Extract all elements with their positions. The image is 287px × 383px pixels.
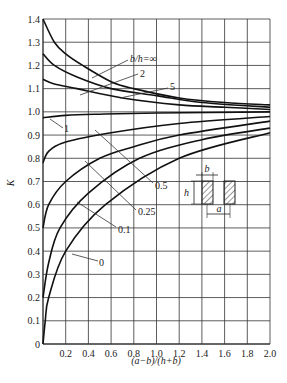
leader-line: [72, 254, 98, 261]
chart: b/h=∞2510.50.250.10 0.20.40.60.81.01.21.…: [0, 0, 287, 383]
x-axis-label: (a−b)/(h+b): [131, 355, 181, 367]
y-tick-label: 0.3: [28, 269, 41, 280]
curve-label-2: 2: [140, 68, 145, 79]
x-tick-label: 1.8: [241, 348, 254, 359]
y-tick-label: 0.7: [28, 176, 41, 187]
leader-line: [77, 202, 116, 227]
h-label: h: [184, 187, 189, 198]
curve-label-0.25: 0.25: [138, 206, 156, 217]
y-tick-label: 0.1: [28, 315, 41, 326]
leader-line: [50, 119, 63, 128]
conductor-left: [202, 181, 213, 204]
y-tick-label: 1.4: [28, 14, 41, 25]
cross-section-inset: bha: [184, 163, 235, 218]
conductor-right: [224, 181, 235, 204]
b-label: b: [205, 163, 210, 174]
y-tick-label: 1.2: [28, 60, 41, 71]
y-tick-label: 0: [35, 339, 40, 350]
x-tick-label: 0.4: [82, 348, 95, 359]
x-tick-label: 0.2: [59, 348, 72, 359]
y-tick-label: 1.3: [28, 37, 41, 48]
y-tick-label: 0.4: [28, 246, 41, 257]
curve-label-5: 5: [170, 81, 175, 92]
y-tick-label: 0.2: [28, 292, 41, 303]
y-tick-label: 1.0: [28, 106, 41, 117]
x-tick-label: 0.6: [105, 348, 118, 359]
curve-label-leaders: [50, 60, 168, 261]
a-label: a: [217, 203, 222, 214]
y-tick-label: 0.8: [28, 153, 41, 164]
x-tick-label: 1.6: [218, 348, 231, 359]
y-tick-label: 1.1: [28, 83, 41, 94]
x-tick-label: 1.4: [196, 348, 209, 359]
leader-line: [85, 161, 136, 210]
y-tick-label: 0.6: [28, 199, 41, 210]
y-tick-label: 0.9: [28, 130, 41, 141]
curve-label-b/h=∞: b/h=∞: [130, 53, 157, 64]
x-tick-label: 2.0: [264, 348, 277, 359]
curve-label-0.1: 0.1: [118, 224, 131, 235]
curve-label-0: 0: [99, 257, 104, 268]
y-axis-label: K: [5, 178, 16, 187]
leader-line: [92, 60, 128, 78]
curve-label-0.5: 0.5: [155, 180, 168, 191]
y-tick-label: 0.5: [28, 222, 41, 233]
curve-label-1: 1: [64, 123, 69, 134]
